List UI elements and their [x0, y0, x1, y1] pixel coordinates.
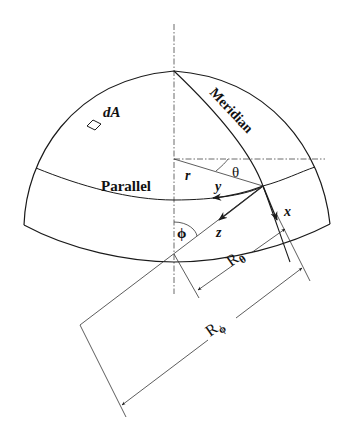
- label-r: r: [185, 168, 191, 183]
- parallel-curve: [36, 167, 315, 200]
- label-x: x: [283, 204, 291, 219]
- theta-arc: [216, 159, 228, 171]
- label-z: z: [215, 225, 222, 240]
- r-theta-dim-lower: [198, 266, 232, 290]
- x-axis-arrow: [263, 186, 277, 220]
- r-theta-extension: [174, 254, 199, 298]
- label-dA: dA: [103, 104, 121, 120]
- label-r-theta: R θ: [223, 246, 248, 272]
- label-theta: θ: [232, 164, 239, 180]
- r-phi-extension-right: [277, 215, 310, 281]
- label-r-phi: R ϕ: [202, 315, 228, 342]
- label-parallel: Parallel: [101, 178, 151, 194]
- label-phi: ϕ: [177, 225, 186, 241]
- shell-outline: [24, 71, 330, 225]
- r-phi-dim-lower: [122, 340, 208, 405]
- label-y: y: [213, 179, 222, 194]
- r-phi-dim-upper: [236, 268, 302, 318]
- r-theta-dim-upper: [251, 229, 285, 253]
- shell-diagram: dA Meridian Parallel r θ y x z ϕ R θ R ϕ: [0, 0, 347, 438]
- r-phi-extension-left: [80, 325, 126, 417]
- area-element-icon: [87, 120, 101, 130]
